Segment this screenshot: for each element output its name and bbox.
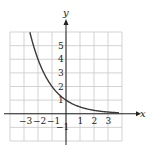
x-axis-label: x [140, 108, 146, 119]
y-tick-label: 2 [58, 82, 64, 92]
x-tick-label: 1 [78, 116, 84, 126]
x-tick-label: 2 [92, 116, 98, 126]
y-tick-label: 1 [58, 95, 64, 105]
axes [4, 19, 141, 145]
y-tick-label: −1 [56, 122, 69, 132]
y-tick-label: 3 [58, 68, 64, 78]
y-axis-arrow-icon [64, 19, 69, 25]
y-tick-label: 5 [58, 41, 64, 51]
exponential-graph: −3−2−1123−112345 x y [0, 0, 153, 150]
y-tick-label: 4 [58, 54, 64, 64]
y-axis-label: y [62, 7, 69, 18]
x-tick-label: 3 [106, 116, 112, 126]
x-tick-label: −3 [19, 116, 33, 126]
x-tick-label: −2 [33, 116, 46, 126]
